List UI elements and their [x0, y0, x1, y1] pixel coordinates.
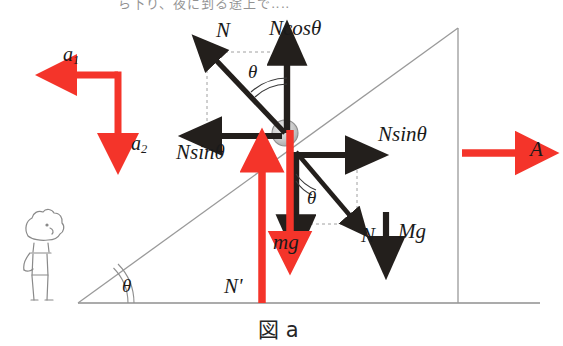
label-Nsin-theta-left-symbol: θ: [215, 140, 225, 164]
label-a2-var: a: [131, 132, 141, 154]
figure-canvas: ら下り、夜に到る途上で‥‥: [0, 0, 563, 346]
physics-free-body-diagram: [0, 0, 563, 346]
observer-stick-figure: [24, 209, 64, 300]
label-theta-upper: θ: [248, 62, 257, 81]
label-N-prime: N': [224, 276, 243, 297]
label-theta-lower: θ: [307, 188, 316, 207]
label-A: A: [530, 139, 543, 160]
vector-N-reaction: [296, 152, 352, 218]
label-a1: a1: [63, 44, 79, 67]
label-Nsin-theta-left: Nsinθ: [176, 142, 225, 163]
label-N-normal: N: [216, 20, 230, 41]
label-theta-base: θ: [122, 276, 131, 295]
label-N-reaction: N: [361, 225, 375, 246]
figure-caption: 図 a: [258, 313, 299, 343]
label-a2-subscript: 2: [141, 142, 147, 156]
label-Nsin-theta-right-expr: Nsin: [378, 122, 417, 146]
label-a2: a2: [131, 133, 147, 156]
label-Mg: Mg: [398, 221, 426, 242]
label-Nsin-theta-left-expr: Nsin: [176, 140, 215, 164]
label-mg: mg: [273, 232, 299, 253]
label-a1-var: a: [63, 43, 73, 65]
label-a1-subscript: 1: [73, 53, 79, 67]
label-Ncos-theta: Ncosθ: [269, 18, 321, 39]
label-Nsin-theta-right-symbol: θ: [417, 122, 427, 146]
incline-surface-line: [78, 28, 458, 303]
vector-a1-a2-acceleration: [70, 72, 118, 141]
label-Ncos-theta-expr: Ncos: [269, 16, 311, 40]
label-Nsin-theta-right: Nsinθ: [378, 124, 427, 145]
label-Ncos-theta-symbol: θ: [311, 16, 321, 40]
